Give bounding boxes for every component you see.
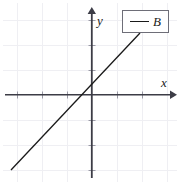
y-axis-label: y [97, 14, 103, 27]
line-chart-figure: y x B [0, 0, 179, 185]
x-axis-arrowhead [170, 91, 177, 99]
legend-entry-b: B [130, 15, 161, 28]
x-axis-label: x [161, 76, 167, 89]
y-axis-arrowhead [88, 7, 96, 14]
series-line-b [11, 33, 140, 170]
legend-label: B [153, 15, 161, 28]
legend-line-swatch-icon [130, 21, 149, 22]
y-axis [88, 7, 96, 178]
data-line [11, 33, 140, 170]
legend: B [122, 10, 169, 33]
